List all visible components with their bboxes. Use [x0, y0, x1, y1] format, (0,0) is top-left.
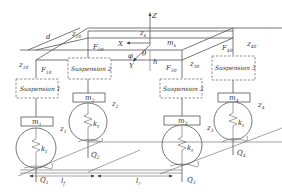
suspension-1: Suspension 1 m1 z1 kt Q1 [16, 79, 67, 185]
svg-text:Suspension 3: Suspension 3 [163, 85, 204, 93]
lr-label: lr [136, 177, 141, 186]
q1-label: Q1 [40, 176, 49, 185]
q4-label: Q4 [237, 149, 246, 158]
q3-label: Q3 [187, 176, 196, 185]
vehicle-body-frame [20, 28, 282, 60]
q2-label: Q2 [91, 151, 100, 160]
suspension-3: Suspension 3 m3 z3 kt Q3 [160, 79, 214, 185]
zc-40-label: z40 [246, 40, 257, 49]
z3-label: z3 [206, 124, 214, 133]
height-label: h [153, 58, 158, 66]
zc-20-label: z20 [71, 30, 82, 39]
f-20-label: F20 [92, 43, 104, 52]
zc-30-label: z30 [189, 60, 200, 69]
f-40-label: F40 [221, 44, 233, 53]
svg-text:Suspension 1: Suspension 1 [20, 85, 61, 93]
z4-label: z4 [257, 101, 265, 110]
track-width-label: d [46, 33, 51, 41]
suspension-2: Suspension 2 m2 z2 kt Q2 [68, 58, 119, 160]
zc-10-label: z10 [18, 61, 29, 70]
f-30-label: F30 [165, 64, 177, 73]
pitch-label: θ [142, 50, 147, 58]
z-axis-label: Z [151, 12, 157, 20]
lf-label: lf [61, 177, 66, 186]
heave-label: zs [139, 29, 147, 38]
z2-label: z2 [111, 100, 119, 109]
z1-label: z1 [59, 125, 67, 134]
wheelbase-dimensions: lf lr [29, 175, 173, 186]
f-10-label: F10 [40, 66, 52, 75]
y-axis-label: Y [129, 62, 135, 70]
roll-label: φ [128, 52, 133, 60]
coordinate-axes: Z X Y zs h φ θ ms [117, 12, 177, 71]
x-axis-label: X [117, 40, 124, 48]
vehicle-suspension-diagram: d Z X Y zs h φ θ ms z20 F20 z10 F10 F30 … [0, 0, 282, 192]
svg-text:Suspension 2: Suspension 2 [71, 65, 112, 73]
body-mass-label: ms [167, 39, 177, 48]
svg-text:Suspension 3: Suspension 3 [215, 64, 256, 72]
